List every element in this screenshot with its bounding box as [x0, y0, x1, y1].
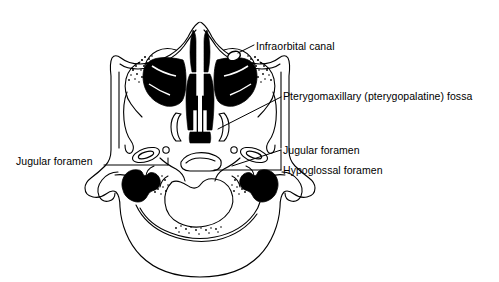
maxillary-sinus-left	[143, 58, 186, 107]
anatomy-figure: Infraorbital canal Pterygomaxillary (pte…	[0, 0, 499, 282]
pterygoid-plate-right	[219, 113, 229, 141]
mandibular-condyle-left	[131, 144, 162, 165]
mastoid-air-cells-right	[240, 170, 278, 202]
carotid-canal-right	[231, 147, 237, 153]
nasal-septum	[198, 74, 202, 133]
mastoid-air-cells-left	[122, 170, 160, 202]
central-skull-base-group	[136, 153, 260, 242]
label-infraorbital-canal: Infraorbital canal	[256, 40, 335, 52]
occipital-inner-table	[140, 202, 260, 238]
foramen-magnum	[165, 179, 233, 227]
pterygoid-plate-left	[171, 113, 181, 141]
occipital-outer-table	[136, 205, 257, 241]
occipital-condyle-left	[160, 176, 168, 187]
label-pterygomaxillary-fossa: Pterygomaxillary (pterygopalatine) fossa	[283, 90, 472, 102]
occipital-condyle-right	[232, 176, 240, 187]
hard-palate	[189, 132, 211, 143]
zygomatic-arch-right	[267, 92, 277, 153]
zygomatic-arch-left	[124, 92, 134, 153]
nasal-cavity-group	[186, 30, 214, 143]
label-jugular-foramen-right: Jugular foramen	[283, 144, 360, 156]
clivus-inner	[186, 158, 215, 163]
skull-base-illustration	[0, 0, 499, 282]
mandibular-condyle-left-inner	[137, 150, 154, 161]
leader-infraorbital-canal	[238, 45, 254, 53]
label-jugular-foramen-left: Jugular foramen	[16, 155, 93, 167]
label-hypoglossal-foramen: Hypoglossal foramen	[283, 164, 383, 176]
maxillary-sinus-right	[214, 58, 257, 107]
carotid-canal-left	[163, 147, 169, 153]
